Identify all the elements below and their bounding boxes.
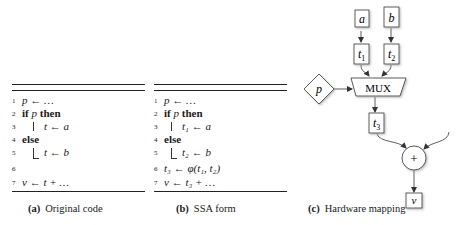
panel-original-code: 1p ← … 2if p then 3t ← a 4else 5t ← b 6 …: [10, 0, 145, 225]
caption-ssa-form: (b)SSA form: [176, 203, 236, 214]
svg-text:+: +: [410, 151, 417, 166]
hardware-diagram: a b t1 t2 MUX p t3: [295, 0, 460, 225]
header-rule: [12, 90, 145, 91]
node-t3: t3: [369, 113, 384, 133]
else-block-bracket: [33, 148, 39, 159]
caption-original-code: (a)Original code: [28, 203, 103, 214]
svg-text:a: a: [359, 12, 365, 26]
code-line-3: 3t ← a: [12, 120, 69, 134]
code-line-7: 7v ← t + …: [12, 176, 69, 190]
bottom-rule: [12, 191, 145, 192]
code-line-4: 4else: [154, 133, 181, 147]
code-line-2: 2if p then: [154, 107, 203, 121]
edge-t1-mux: [361, 65, 369, 76]
then-block-bracket: [33, 122, 34, 131]
node-v: v: [406, 193, 422, 208]
algorithm-ssa: 1p ← … 2if p then 3t₁ ← a 4else 5t₂ ← b …: [154, 84, 287, 194]
svg-text:MUX: MUX: [365, 82, 391, 94]
node-adder: +: [402, 146, 426, 170]
panel-ssa-form: 1p ← … 2if p then 3t₁ ← a 4else 5t₂ ← b …: [150, 0, 290, 225]
code-line-7: 7v ← t₃ + …: [154, 176, 215, 190]
node-t2: t2: [384, 44, 399, 64]
then-block-bracket: [171, 122, 172, 131]
svg-text:v: v: [412, 194, 417, 206]
code-line-5: 5t ← b: [12, 146, 69, 160]
node-t1: t1: [354, 44, 369, 64]
code-line-1: 1p ← …: [12, 94, 54, 108]
code-line-1: 1p ← …: [154, 94, 196, 108]
top-rule: [12, 84, 145, 85]
bottom-rule: [154, 191, 287, 192]
top-rule: [154, 84, 287, 85]
edge-input-plus: [424, 132, 449, 149]
panel-hardware-mapping: a b t1 t2 MUX p t3: [295, 0, 460, 225]
code-line-2: 2if p then: [12, 107, 61, 121]
edge-t3-plus: [377, 134, 406, 148]
algorithm-original: 1p ← … 2if p then 3t ← a 4else 5t ← b 6 …: [12, 84, 145, 194]
svg-text:p: p: [315, 82, 322, 96]
edge-t2-mux: [382, 65, 391, 76]
caption-hardware-mapping: (c)Hardware mapping: [308, 203, 405, 214]
node-mux: MUX: [351, 78, 406, 96]
code-line-3: 3t₁ ← a: [154, 120, 211, 134]
else-block-bracket: [171, 148, 177, 159]
node-b: b: [384, 7, 399, 27]
code-line-4: 4else: [12, 133, 39, 147]
svg-text:b: b: [389, 11, 395, 25]
header-rule: [154, 90, 287, 91]
code-line-5: 5t₂ ← b: [154, 146, 211, 160]
code-line-6: 6: [12, 162, 22, 176]
node-p: p: [304, 74, 334, 104]
code-line-6: 6t₃ ← φ(t₁, t₂): [154, 162, 220, 176]
node-a: a: [355, 10, 369, 27]
